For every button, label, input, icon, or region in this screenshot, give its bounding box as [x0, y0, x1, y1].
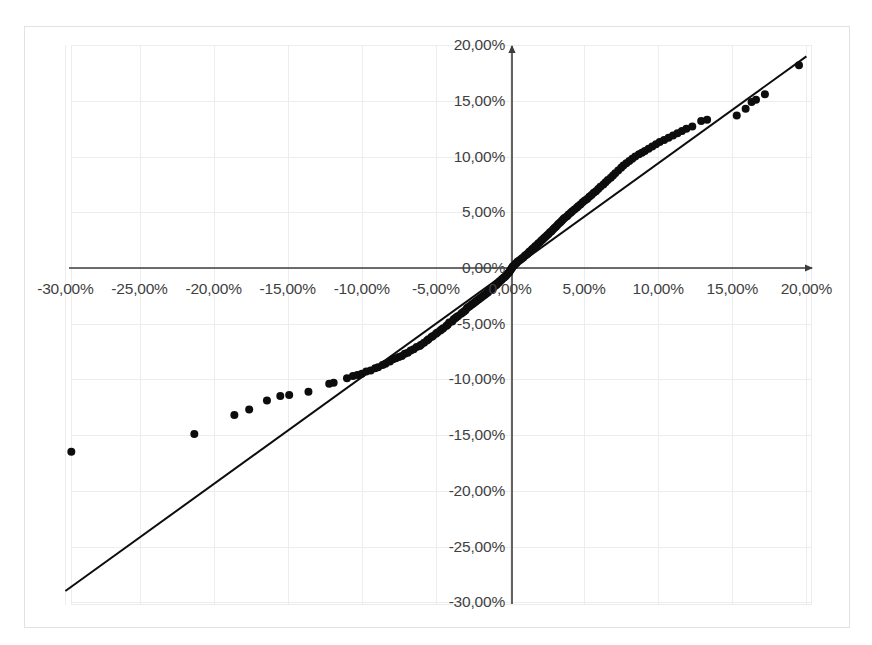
y-tick-label: -15,00%	[410, 426, 505, 444]
data-point	[742, 105, 750, 113]
data-point	[190, 430, 198, 438]
data-point	[245, 405, 253, 413]
y-tick-label: -20,00%	[410, 482, 505, 500]
data-point	[761, 90, 769, 98]
x-tick-label: -10,00%	[334, 280, 390, 298]
x-tick-label: -5,00%	[412, 280, 460, 298]
data-point	[263, 397, 271, 405]
data-point	[285, 391, 293, 399]
data-point	[795, 61, 803, 69]
y-tick-label: 10,00%	[410, 148, 505, 166]
qq-plot-chart: -30,00%-25,00%-20,00%-15,00%-10,00%-5,00…	[0, 0, 872, 645]
x-tick-label: 0,00%	[489, 280, 532, 298]
y-tick-label: -25,00%	[410, 538, 505, 556]
y-tick-label: 0,00%	[410, 259, 505, 277]
x-tick-label: 20,00%	[781, 280, 832, 298]
data-point	[688, 123, 696, 131]
x-tick-label: -25,00%	[111, 280, 167, 298]
x-tick-label: -30,00%	[37, 280, 93, 298]
y-tick-label: 5,00%	[410, 203, 505, 221]
data-point	[733, 111, 741, 119]
x-tick-label: 5,00%	[563, 280, 606, 298]
x-tick-label: -15,00%	[260, 280, 316, 298]
y-tick-label: -30,00%	[410, 593, 505, 611]
data-point	[752, 96, 760, 104]
x-tick-label: 10,00%	[633, 280, 684, 298]
data-point	[330, 379, 338, 387]
data-point	[67, 448, 75, 456]
y-tick-label: -10,00%	[410, 370, 505, 388]
x-tick-label: -20,00%	[185, 280, 241, 298]
y-tick-label: 20,00%	[410, 36, 505, 54]
y-tick-label: 15,00%	[410, 92, 505, 110]
data-point	[703, 116, 711, 124]
data-point	[230, 411, 238, 419]
data-point	[304, 388, 312, 396]
y-tick-label: -5,00%	[410, 315, 505, 333]
x-tick-label: 15,00%	[707, 280, 758, 298]
data-point	[276, 392, 284, 400]
